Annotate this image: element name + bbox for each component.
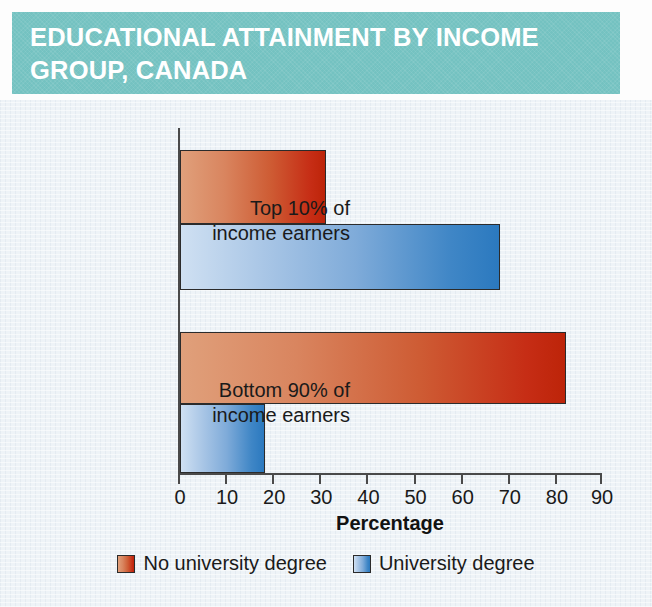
legend-swatch-icon-no-university-degree xyxy=(117,555,135,573)
legend-item-no-university-degree: No university degree xyxy=(117,552,326,575)
page-title: EDUCATIONAL ATTAINMENT BY INCOME GROUP, … xyxy=(30,21,606,86)
chart-page: EDUCATIONAL ATTAINMENT BY INCOME GROUP, … xyxy=(0,0,652,607)
category-label-top10: Top 10% of income earners xyxy=(150,196,350,246)
x-tick-70 xyxy=(508,475,510,484)
legend-label-no-university-degree: No university degree xyxy=(143,552,326,575)
x-tick-label-50: 50 xyxy=(396,486,436,509)
category-axis-labels: Top 10% of income earners Bottom 90% of … xyxy=(146,128,350,478)
x-tick-label-0: 0 xyxy=(160,486,200,509)
chart-canvas: 0 10 20 30 40 50 60 70 80 90 Top 10% of … xyxy=(0,100,652,607)
x-tick-label-10: 10 xyxy=(207,486,247,509)
x-axis-title: Percentage xyxy=(178,512,602,535)
plot-area: 0 10 20 30 40 50 60 70 80 90 Top 10% of … xyxy=(178,128,602,478)
x-tick-label-30: 30 xyxy=(301,486,341,509)
legend-item-university-degree: University degree xyxy=(353,552,535,575)
x-tick-90 xyxy=(600,475,602,484)
category-label-bottom90: Bottom 90% of income earners xyxy=(150,378,350,428)
x-tick-60 xyxy=(461,475,463,484)
chart-title-banner: EDUCATIONAL ATTAINMENT BY INCOME GROUP, … xyxy=(12,12,620,94)
x-tick-label-40: 40 xyxy=(348,486,388,509)
x-tick-50 xyxy=(414,475,416,484)
x-tick-label-90: 90 xyxy=(582,486,622,509)
x-tick-40 xyxy=(366,475,368,484)
legend-label-university-degree: University degree xyxy=(379,552,535,575)
chart-legend: No university degree University degree xyxy=(0,552,652,575)
legend-swatch-icon-university-degree xyxy=(353,555,371,573)
x-tick-label-20: 20 xyxy=(254,486,294,509)
x-tick-label-60: 60 xyxy=(443,486,483,509)
x-tick-label-80: 80 xyxy=(537,486,577,509)
x-tick-80 xyxy=(555,475,557,484)
x-tick-label-70: 70 xyxy=(490,486,530,509)
